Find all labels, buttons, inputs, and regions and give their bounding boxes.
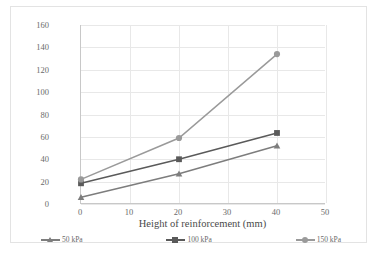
gridline-horizontal (81, 204, 325, 205)
y-axis-title: Peak deviator stress at 20% strain (kPa) (25, 0, 61, 19)
data-point-marker (274, 130, 280, 136)
y-axis-tick-label: 80 (19, 111, 49, 120)
legend-item[interactable]: 150 kPa (296, 235, 341, 244)
y-axis-tick-label: 40 (19, 155, 49, 164)
x-axis-tick-label: 40 (261, 208, 291, 217)
y-axis-tick-label: 160 (19, 21, 49, 30)
gridline-vertical (326, 25, 327, 203)
data-point-marker (78, 176, 84, 182)
legend-item[interactable]: 100 kPa (166, 235, 211, 244)
x-axis-title: Height of reinforcement (mm) (80, 218, 325, 229)
legend-label: 150 kPa (317, 235, 341, 244)
x-axis-tick-label: 30 (212, 208, 242, 217)
y-axis-tick-label: 60 (19, 133, 49, 142)
legend-marker-circle-icon (296, 236, 315, 244)
legend-label: 50 kPa (62, 235, 83, 244)
data-point-marker (274, 143, 281, 149)
chart-frame: Peak deviator stress at 20% strain (kPa)… (10, 6, 367, 243)
y-axis-tick-label: 140 (19, 43, 49, 52)
series-lines-and-markers (81, 25, 326, 204)
y-axis-tick-label: 100 (19, 88, 49, 97)
chart-legend: 50 kPa100 kPa150 kPa (41, 235, 341, 244)
x-axis-tick-label: 20 (163, 208, 193, 217)
legend-marker-square-icon (166, 236, 185, 244)
plot-area (80, 25, 325, 204)
legend-label: 100 kPa (187, 235, 211, 244)
x-axis-tick-label: 10 (114, 208, 144, 217)
data-point-marker (274, 51, 280, 57)
data-point-marker (176, 156, 182, 162)
data-point-marker (176, 135, 182, 141)
y-axis-tick-label: 20 (19, 178, 49, 187)
legend-marker-triangle-icon (41, 236, 60, 244)
x-axis-tick-label: 50 (310, 208, 340, 217)
y-axis-tick-label: 0 (19, 200, 49, 209)
legend-item[interactable]: 50 kPa (41, 235, 83, 244)
y-axis-tick-label: 120 (19, 66, 49, 75)
x-axis-tick-label: 0 (65, 208, 95, 217)
